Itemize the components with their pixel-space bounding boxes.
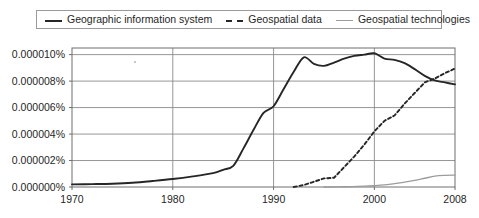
legend-item-geospatial-data: Geospatial data: [226, 14, 322, 25]
chart-figure: Geographic information system Geospatial…: [0, 0, 479, 218]
legend-swatch-solid-dark-icon: [45, 16, 62, 24]
legend-item-geographic-information-system: Geographic information system: [45, 14, 212, 25]
series-lines: [72, 53, 455, 187]
y-axis-tick-labels: 0.000010%0.000008%0.000006%0.000004%0.00…: [12, 48, 65, 192]
x-axis-tick-label: 2008: [443, 193, 467, 205]
scan-speck: [134, 61, 136, 63]
legend-label: Geospatial data: [248, 14, 322, 25]
series-line-0: [72, 53, 455, 184]
grid-lines: [72, 48, 455, 187]
chart-legend: Geographic information system Geospatial…: [36, 10, 442, 29]
legend-swatch-solid-gray-icon: [336, 16, 353, 24]
legend-swatch-dashed-dark-icon: [226, 16, 243, 24]
y-axis-tick-label: 0.000002%: [12, 154, 65, 166]
y-axis-tick-label: 0.000010%: [12, 48, 65, 60]
y-axis-tick-label: 0.000008%: [12, 75, 65, 87]
axis-lines: [69, 48, 455, 190]
line-chart: 0.000010%0.000008%0.000006%0.000004%0.00…: [0, 36, 479, 218]
plot-area-wrapper: 0.000010%0.000008%0.000006%0.000004%0.00…: [0, 36, 479, 218]
legend-label: Geospatial technologies: [358, 14, 470, 25]
x-axis-tick-label: 1970: [60, 193, 84, 205]
y-axis-tick-label: 0.000006%: [12, 101, 65, 113]
scan-artifact: [134, 61, 136, 63]
legend-item-geospatial-technologies: Geospatial technologies: [336, 14, 470, 25]
series-line-2: [324, 175, 455, 187]
y-axis-tick-label: 0.000004%: [12, 128, 65, 140]
legend-label: Geographic information system: [67, 14, 212, 25]
y-axis-tick-label: 0.000000%: [12, 181, 65, 193]
x-axis-tick-label: 2000: [363, 193, 387, 205]
x-axis-tick-label: 1990: [262, 193, 286, 205]
plot-frame: [72, 48, 455, 187]
x-axis-tick-labels: 19701980199020002008: [60, 193, 467, 205]
x-axis-tick-label: 1980: [161, 193, 185, 205]
